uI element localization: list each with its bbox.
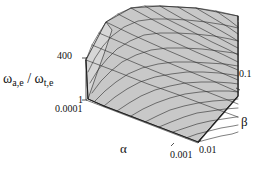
omega-a-e-subscript: a,e	[12, 77, 23, 88]
omega-t-e-symbol: ω	[35, 71, 44, 86]
z-axis-tick-400: 400	[57, 51, 72, 61]
y-axis-label-beta: β	[241, 115, 248, 128]
z-axis-label: ωa,e / ωt,e	[3, 72, 54, 88]
omega-a-e-symbol: ω	[3, 71, 12, 86]
y-axis-tick-01: 0.1	[239, 69, 252, 79]
ratio-slash: /	[27, 71, 31, 86]
omega-t-e-subscript: t,e	[44, 77, 54, 88]
surface-mesh	[86, 6, 238, 142]
x-axis-label-alpha: α	[120, 142, 127, 155]
x-axis-tick-0001: 0.001	[170, 150, 193, 160]
x-axis-tick-001: 0.01	[199, 145, 217, 155]
z-axis-tick-00001: 0.0001	[55, 104, 83, 114]
